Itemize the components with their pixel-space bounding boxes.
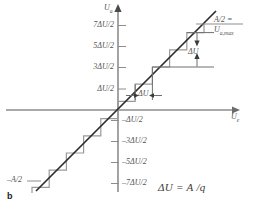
delta-u-horizontal-arrowhead-right bbox=[149, 93, 154, 98]
y-axis-label: Ua bbox=[104, 4, 113, 14]
y-tick-label-7du2: 7ΔU/2 bbox=[56, 21, 114, 29]
y-tick-label-3du2: 3ΔU/2 bbox=[56, 63, 114, 71]
equation-label: ΔU = A /q bbox=[158, 182, 206, 193]
y-tick-label-minus-3du2: –3ΔU/2 bbox=[122, 137, 147, 145]
x-axis-label: Ue bbox=[231, 113, 239, 123]
panel-label: b bbox=[7, 192, 13, 201]
delta-u-horizontal-label: ΔU bbox=[138, 90, 148, 98]
delta-u-vertical-arrowhead-upper bbox=[194, 41, 199, 47]
y-tick-label-minus-7du2: –7ΔU/2 bbox=[122, 179, 147, 187]
a-half-annotation-line1: A/2 = bbox=[214, 16, 233, 24]
y-tick-label-5du2: 5ΔU/2 bbox=[56, 42, 114, 50]
y-tick-label-minus-du2: –ΔU/2 bbox=[122, 116, 143, 124]
y-tick-label-minus-5du2: –5ΔU/2 bbox=[122, 158, 147, 166]
y-tick-label-du2: ΔU/2 bbox=[56, 85, 114, 93]
minus-a-half-label: –A/2 bbox=[7, 176, 22, 184]
y-axis-arrowhead bbox=[114, 4, 121, 12]
a-half-annotation-line2: Ua,max bbox=[214, 26, 234, 36]
delta-u-vertical-label: ΔU bbox=[188, 48, 198, 56]
figure-container: Ua Ue 7ΔU/2 5ΔU/2 3ΔU/2 ΔU/2 –ΔU/2 –3ΔU/… bbox=[0, 0, 254, 208]
